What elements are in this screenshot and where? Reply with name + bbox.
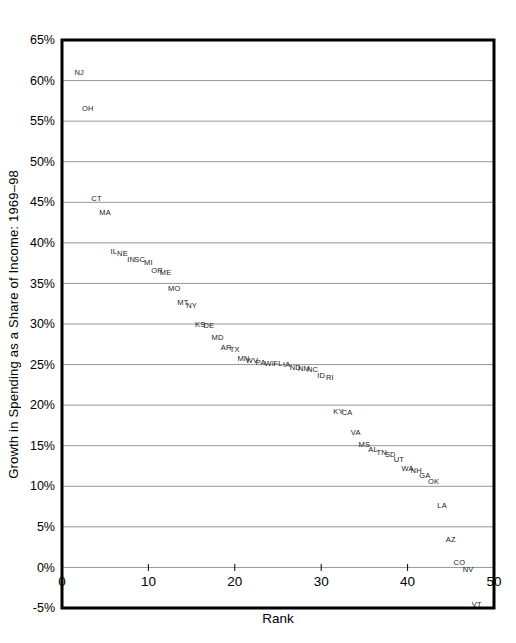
data-point-ID: ID [317,371,325,380]
data-point-VA: VA [351,428,361,437]
y-tick-label-5: 5% [37,520,55,534]
data-point-FL: FL [273,359,282,368]
data-point-OH: OH [82,104,94,113]
data-point-ME: ME [160,268,172,277]
x-tick-label-0: 0 [58,574,66,589]
y-axis-title-text: Growth in Spending as a Share of Income:… [6,170,21,479]
y-tick-label--5: -5% [33,601,55,615]
y-tick-label-40: 40% [30,236,55,250]
y-tick-label-15: 15% [30,439,55,453]
data-point-NV: NV [463,565,474,574]
data-point-MD: MD [211,333,223,342]
x-tick-label-10: 10 [141,574,156,589]
data-point-DE: DE [203,321,214,330]
y-tick-label-35: 35% [30,277,55,291]
x-axis-title: Rank [62,611,494,626]
y-tick-label-60: 60% [30,74,55,88]
data-point-MA: MA [99,208,111,217]
data-point-NY: NY [186,301,197,310]
x-tick-label-40: 40 [400,574,415,589]
chart-figure: 65%60%55%50%45%40%35%30%25%20%15%10%5%0%… [0,0,516,643]
data-point-AZ: AZ [446,535,456,544]
y-tick-label-10: 10% [30,479,55,493]
x-tick-label-30: 30 [314,574,329,589]
rank-scatter-chart: 65%60%55%50%45%40%35%30%25%20%15%10%5%0%… [0,0,516,643]
y-tick-label-25: 25% [30,358,55,372]
y-tick-label-45: 45% [30,195,55,209]
y-tick-label-50: 50% [30,155,55,169]
data-point-OK: OK [428,477,439,486]
data-point-CT: CT [91,194,102,203]
data-point-NJ: NJ [74,68,84,77]
x-tick-label-50: 50 [486,574,501,589]
y-tick-label-55: 55% [30,114,55,128]
data-point-LA: LA [437,501,447,510]
y-tick-label-20: 20% [30,398,55,412]
data-point-MO: MO [168,284,180,293]
data-point-TX: TX [230,345,240,354]
data-point-VT: VT [472,600,482,609]
y-tick-label-30: 30% [30,317,55,331]
y-tick-label-0: 0% [37,561,55,575]
y-tick-label-65: 65% [30,33,55,47]
x-tick-label-20: 20 [227,574,242,589]
data-point-RI: RI [326,373,334,382]
data-point-UT: UT [394,455,405,464]
y-axis-title: Growth in Spending as a Share of Income:… [2,40,24,608]
data-point-CA: CA [342,408,353,417]
